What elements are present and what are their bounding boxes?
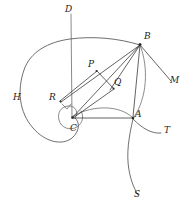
label-C: C — [70, 124, 77, 133]
segment-Q-C — [73, 89, 114, 118]
segment-B-A — [133, 45, 140, 117]
segment-R-P — [60, 71, 97, 101]
logarithmic-spiral-H — [20, 38, 140, 142]
vertex-dot-P — [96, 70, 98, 72]
label-H: H — [13, 93, 21, 102]
tangent-curve-T — [133, 119, 161, 133]
logarithmic-spiral-S — [128, 119, 138, 195]
segment-P-Q — [97, 71, 114, 89]
vertex-dot-A — [132, 117, 135, 120]
label-B: B — [144, 32, 151, 41]
label-P: P — [88, 60, 94, 69]
vertex-dot-R — [60, 101, 62, 103]
label-S: S — [134, 190, 140, 199]
vertical-axis-D — [71, 14, 72, 118]
vertex-dot-B — [139, 43, 142, 46]
vertex-dot-Q — [113, 88, 115, 90]
label-M: M — [170, 76, 179, 85]
label-Q: Q — [114, 78, 121, 87]
label-T: T — [164, 126, 170, 135]
label-A: A — [135, 110, 142, 119]
label-R: R — [49, 93, 56, 102]
geometry-figure: D B M P Q H R A C T S — [0, 0, 185, 207]
vertex-dot-C — [71, 116, 74, 119]
arc-B-A — [134, 45, 146, 117]
figure-canvas — [0, 0, 185, 207]
label-D: D — [65, 5, 72, 14]
segment-B-R — [61, 45, 140, 102]
